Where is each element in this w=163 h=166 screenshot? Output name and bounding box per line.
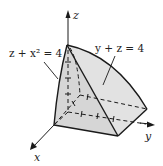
surface-right-label: y + z = 4: [94, 42, 144, 54]
y-axis-arrow-icon: [147, 122, 155, 128]
y-axis-label: y: [144, 130, 152, 143]
surface-left-label: z + x² = 4: [9, 47, 63, 59]
z-axis-arrow-icon: [66, 10, 71, 18]
x-axis-label: x: [34, 151, 41, 164]
solid-region-diagram: z x y z + x² = 4 y + z = 4: [0, 0, 163, 166]
surface-left-leader: [44, 62, 58, 79]
z-axis-label: z: [72, 9, 79, 22]
x-axis: [33, 125, 54, 147]
